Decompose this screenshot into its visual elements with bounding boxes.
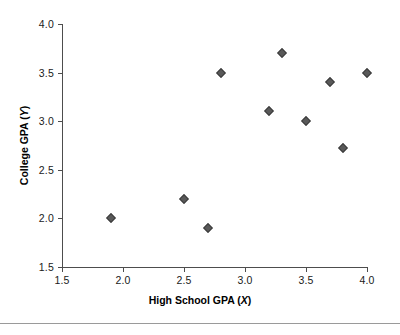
y-axis-tick (58, 24, 62, 25)
footer-divider (0, 323, 400, 324)
x-axis-tick (62, 268, 63, 272)
x-axis-tick-label: 4.0 (359, 274, 374, 286)
x-axis-tick-label: 2.0 (115, 274, 130, 286)
y-axis-title-paren: ) (18, 106, 30, 110)
x-axis-tick-label: 1.5 (54, 274, 69, 286)
y-axis-title-variable: Y (18, 109, 30, 116)
y-axis-title-text: College GPA ( (18, 116, 30, 185)
x-axis-tick (306, 268, 307, 272)
x-axis-tick-label: 2.5 (176, 274, 191, 286)
plot-area (62, 24, 367, 267)
y-axis-tick-label: 2.5 (39, 164, 54, 176)
x-axis-tick (184, 268, 185, 272)
x-axis-tick (245, 268, 246, 272)
x-axis-title-text: High School GPA ( (149, 294, 241, 306)
y-axis-tick (58, 121, 62, 122)
y-axis-tick (58, 73, 62, 74)
x-axis-tick (367, 268, 368, 272)
x-axis-tick-label: 3.5 (298, 274, 313, 286)
y-axis-tick-label: 3.0 (39, 115, 54, 127)
x-axis-tick (123, 268, 124, 272)
y-axis-tick (58, 170, 62, 171)
scatter-plot-figure: 1.52.02.53.03.54.0 1.52.02.53.03.54.0 Hi… (0, 0, 400, 335)
y-axis-tick-label: 4.0 (39, 18, 54, 30)
x-axis-title-variable: X (241, 294, 248, 306)
y-axis-tick-label: 2.0 (39, 212, 54, 224)
x-axis-tick-label: 3.0 (237, 274, 252, 286)
x-axis-title: High School GPA (X) (0, 294, 400, 306)
y-axis-title: College GPA (Y) (18, 24, 34, 267)
y-axis-line (62, 24, 63, 268)
x-axis-line (62, 267, 368, 268)
y-axis-tick (58, 218, 62, 219)
y-axis-tick-label: 1.5 (39, 261, 54, 273)
x-axis-title-paren: ) (248, 294, 252, 306)
y-axis-tick-label: 3.5 (39, 67, 54, 79)
